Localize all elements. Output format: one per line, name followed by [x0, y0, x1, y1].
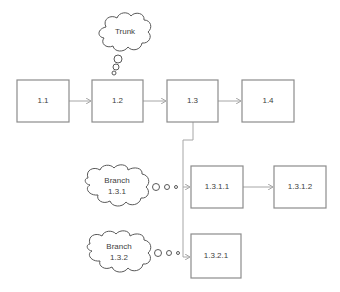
node-label: 1.4	[262, 96, 274, 105]
branch-label-line2: 1.3.2	[110, 253, 128, 262]
node-1-3: 1.3	[167, 80, 218, 122]
thought-bubble-small	[175, 186, 178, 189]
thought-bubble-medium	[113, 64, 119, 70]
branch-label-line1: Branch	[106, 242, 131, 251]
branch-label-line2: 1.3.1	[108, 187, 126, 196]
node-1-3-1-2: 1.3.1.2	[274, 166, 326, 208]
thought-bubble-medium	[165, 185, 170, 190]
branching-diagram: 1.1 1.2 1.3 1.4 1.3.1.1 1.3.1.2 1.3.2.1 …	[0, 0, 340, 292]
node-label: 1.3	[187, 96, 199, 105]
thought-bubble-large	[153, 184, 160, 191]
thought-bubble-large	[155, 250, 162, 257]
trunk-label: Trunk	[115, 27, 136, 36]
node-label: 1.1	[37, 96, 49, 105]
node-1-3-2-1: 1.3.2.1	[191, 234, 241, 278]
thought-bubble-small	[177, 252, 180, 255]
node-1-2: 1.2	[92, 80, 143, 122]
node-label: 1.3.2.1	[204, 251, 229, 260]
node-1-4: 1.4	[242, 80, 294, 122]
node-label: 1.2	[112, 96, 124, 105]
node-label: 1.3.1.1	[205, 182, 230, 191]
thought-bubble-small	[112, 71, 116, 75]
branch-label-line1: Branch	[104, 176, 129, 185]
trunk-thought-cloud: Trunk	[99, 13, 151, 75]
thought-bubble-medium	[167, 251, 172, 256]
node-label: 1.3.1.2	[288, 182, 313, 191]
node-1-1: 1.1	[17, 80, 69, 122]
thought-bubble-large	[114, 55, 122, 63]
branch-1-3-1-thought-cloud: Branch 1.3.1	[85, 165, 177, 206]
branch-1-3-2-thought-cloud: Branch 1.3.2	[87, 231, 179, 272]
node-1-3-1-1: 1.3.1.1	[191, 166, 243, 208]
